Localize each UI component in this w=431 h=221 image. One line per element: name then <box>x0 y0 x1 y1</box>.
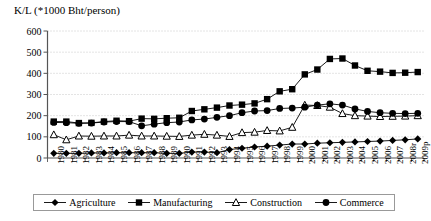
marker-square <box>164 115 170 121</box>
marker-diamond <box>52 199 59 206</box>
plot-area: 0100200300400500600 <box>0 0 431 221</box>
marker-square <box>339 55 345 61</box>
legend-item-construction[interactable]: Construction <box>225 197 302 208</box>
legend-item-agriculture[interactable]: Agriculture <box>44 197 115 208</box>
marker-square <box>251 100 257 106</box>
marker-circle <box>138 122 145 129</box>
marker-circle <box>389 110 396 117</box>
marker-diamond <box>389 137 396 144</box>
chart-container: K/L (*1000 Bht/person) 01002003004005006… <box>0 0 431 221</box>
marker-circle <box>276 105 283 112</box>
marker-triangle <box>50 131 57 138</box>
marker-square <box>176 115 182 121</box>
marker-square <box>88 120 94 126</box>
marker-diamond <box>100 149 107 156</box>
marker-square <box>214 104 220 110</box>
marker-square <box>126 118 132 124</box>
marker-square <box>352 62 358 68</box>
marker-diamond <box>364 138 371 145</box>
legend-item-label: Construction <box>250 197 302 208</box>
legend-marker-filled-square <box>128 197 150 208</box>
legend-item-commerce[interactable]: Commerce <box>315 197 384 208</box>
y-axis-tick-label: 500 <box>27 47 42 58</box>
marker-circle <box>322 199 329 206</box>
marker-circle <box>226 112 233 119</box>
marker-square <box>402 69 408 75</box>
marker-square <box>151 116 157 122</box>
marker-diamond <box>213 149 220 156</box>
marker-diamond <box>301 140 308 147</box>
marker-triangle <box>339 110 346 117</box>
marker-square <box>302 71 308 77</box>
series-line <box>54 59 418 124</box>
marker-diamond <box>176 150 183 157</box>
marker-circle <box>289 105 296 112</box>
legend-marker-open-triangle <box>225 197 247 208</box>
marker-square <box>264 96 270 102</box>
marker-diamond <box>125 149 132 156</box>
marker-circle <box>352 105 359 112</box>
y-axis-tick-label: 600 <box>27 26 42 37</box>
marker-circle <box>251 108 258 115</box>
marker-square <box>63 118 69 124</box>
marker-diamond <box>163 150 170 157</box>
marker-triangle <box>201 130 208 137</box>
marker-triangle <box>264 127 271 134</box>
y-axis-tick-label: 400 <box>27 68 42 79</box>
legend-item-label: Manufacturing <box>153 197 212 208</box>
marker-diamond <box>376 137 383 144</box>
marker-square <box>189 108 195 114</box>
marker-diamond <box>264 143 271 150</box>
marker-diamond <box>138 149 145 156</box>
legend-item-manufacturing[interactable]: Manufacturing <box>128 197 212 208</box>
marker-diamond <box>414 135 421 142</box>
marker-circle <box>188 117 195 124</box>
marker-diamond <box>50 150 57 157</box>
marker-circle <box>239 109 246 116</box>
marker-square <box>276 88 282 94</box>
marker-square <box>389 70 395 76</box>
legend-item-label: Commerce <box>340 197 384 208</box>
marker-diamond <box>113 149 120 156</box>
marker-square <box>415 69 421 75</box>
marker-diamond <box>326 139 333 146</box>
marker-circle <box>377 109 384 116</box>
marker-diamond <box>151 149 158 156</box>
series-line <box>54 139 418 153</box>
marker-square <box>136 199 142 205</box>
marker-diamond <box>88 149 95 156</box>
legend-marker-filled-circle <box>315 197 337 208</box>
legend-marker-filled-diamond <box>44 197 66 208</box>
marker-square <box>51 118 57 124</box>
marker-diamond <box>402 136 409 143</box>
marker-circle <box>402 110 409 117</box>
marker-diamond <box>251 143 258 150</box>
marker-diamond <box>75 150 82 157</box>
marker-circle <box>414 110 421 117</box>
marker-triangle <box>289 124 296 131</box>
marker-circle <box>339 102 346 109</box>
marker-square <box>239 101 245 107</box>
y-axis-tick-label: 100 <box>27 131 42 142</box>
marker-square <box>314 66 320 72</box>
marker-circle <box>214 114 221 121</box>
series-line <box>54 104 418 126</box>
marker-diamond <box>339 139 346 146</box>
marker-diamond <box>314 140 321 147</box>
marker-diamond <box>238 145 245 152</box>
marker-circle <box>301 104 308 111</box>
marker-circle <box>201 116 208 123</box>
marker-diamond <box>289 140 296 147</box>
marker-diamond <box>351 138 358 145</box>
marker-diamond <box>226 146 233 153</box>
marker-circle <box>264 107 271 114</box>
marker-circle <box>314 102 321 109</box>
marker-square <box>76 120 82 126</box>
marker-diamond <box>201 148 208 155</box>
marker-circle <box>364 108 371 115</box>
marker-square <box>101 118 107 124</box>
marker-diamond <box>188 148 195 155</box>
marker-square <box>201 106 207 112</box>
legend-item-label: Agriculture <box>69 197 115 208</box>
marker-square <box>226 102 232 108</box>
